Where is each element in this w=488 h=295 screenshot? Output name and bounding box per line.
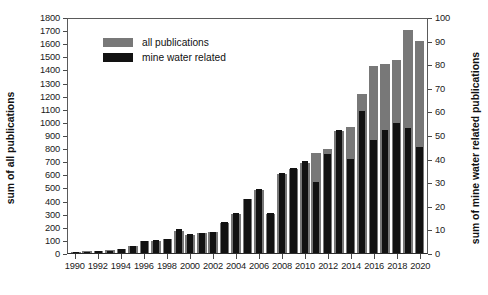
x-axis-tick	[334, 254, 346, 260]
x-axis-tick	[150, 254, 162, 260]
bar-mine-water-related[interactable]	[107, 251, 113, 253]
bar-group[interactable]	[311, 19, 322, 253]
y-axis-right-tick	[428, 207, 432, 208]
y-axis-right-tick	[428, 183, 432, 184]
bar-mine-water-related[interactable]	[164, 239, 170, 253]
bar-group[interactable]	[414, 19, 425, 253]
bar-mine-water-related[interactable]	[405, 128, 411, 253]
bar-group[interactable]	[253, 19, 264, 253]
x-axis-label-cell: 2006	[253, 261, 265, 277]
y-axis-right-tick-label: 70	[435, 84, 445, 94]
bar-mine-water-related[interactable]	[210, 232, 216, 253]
bar-group[interactable]	[276, 19, 287, 253]
bar-mine-water-related[interactable]	[141, 241, 147, 253]
x-axis-tick	[403, 254, 415, 260]
x-axis-label-cell: 2000	[184, 261, 196, 277]
x-axis-label-cell: 2020	[414, 261, 426, 277]
bar-mine-water-related[interactable]	[73, 252, 79, 253]
x-axis-tick	[230, 254, 242, 260]
bar-group[interactable]	[81, 19, 92, 253]
bar-mine-water-related[interactable]	[267, 213, 273, 253]
y-axis-left-tick-label: 1000	[40, 118, 60, 128]
y-axis-left-tick-label: 600	[45, 170, 60, 180]
bar-mine-water-related[interactable]	[244, 199, 250, 253]
y-axis-right-tick-label: 90	[435, 37, 445, 47]
bar-group[interactable]	[288, 19, 299, 253]
y-axis-right-tick-label: 80	[435, 60, 445, 70]
bar-mine-water-related[interactable]	[302, 161, 308, 253]
y-axis-right-title: sum of mine water related publications	[466, 0, 484, 295]
bar-mine-water-related[interactable]	[199, 233, 205, 253]
bar-group[interactable]	[402, 19, 413, 253]
x-axis-tick	[173, 254, 185, 260]
bar-group[interactable]	[391, 19, 402, 253]
bar-mine-water-related[interactable]	[256, 189, 262, 253]
x-axis-tick	[81, 254, 93, 260]
bar-group[interactable]	[299, 19, 310, 253]
bar-group[interactable]	[242, 19, 253, 253]
x-axis-label-cell: 1996	[138, 261, 150, 277]
y-axis-left: 0100200300400500600700800900100011001200…	[0, 18, 67, 254]
bar-mine-water-related[interactable]	[324, 154, 330, 253]
bar-mine-water-related[interactable]	[290, 168, 296, 253]
y-axis-left-tick-label: 0	[55, 249, 60, 259]
x-axis-tick	[288, 254, 300, 260]
x-axis-tick	[219, 254, 231, 260]
x-axis-tick	[276, 254, 288, 260]
bar-group[interactable]	[333, 19, 344, 253]
bar-mine-water-related[interactable]	[130, 246, 136, 253]
legend-item-all-publications: all publications	[103, 36, 226, 49]
x-axis-tick	[242, 254, 254, 260]
x-axis-label-cell: 2012	[322, 261, 334, 277]
bar-mine-water-related[interactable]	[359, 111, 365, 253]
x-axis-tick-label: 2020	[410, 261, 430, 271]
bar-mine-water-related[interactable]	[336, 130, 342, 253]
y-axis-left-tick-label: 700	[45, 157, 60, 167]
y-axis-left-tick-label: 100	[45, 236, 60, 246]
bar-mine-water-related[interactable]	[313, 182, 319, 253]
x-axis-tick	[345, 254, 357, 260]
legend-item-mine-water-related: mine water related	[103, 51, 226, 64]
bar-group[interactable]	[70, 19, 81, 253]
bar-mine-water-related[interactable]	[221, 222, 227, 253]
x-axis-tick	[207, 254, 219, 260]
legend-swatch-icon-all	[103, 38, 133, 47]
y-axis-left-tick-label: 200	[45, 223, 60, 233]
bar-group[interactable]	[356, 19, 367, 253]
y-axis-right-tick-label: 40	[435, 155, 445, 165]
x-axis-tick	[196, 254, 208, 260]
bar-mine-water-related[interactable]	[347, 159, 353, 253]
x-axis-label-cell: 2010	[299, 261, 311, 277]
y-axis-right-tick	[428, 160, 432, 161]
legend-label-all: all publications	[142, 37, 209, 48]
bar-group[interactable]	[345, 19, 356, 253]
bar-mine-water-related[interactable]	[176, 229, 182, 253]
y-axis-left-tick-label: 400	[45, 197, 60, 207]
y-axis-left-tick-label: 800	[45, 144, 60, 154]
bar-group[interactable]	[368, 19, 379, 253]
bar-mine-water-related[interactable]	[84, 252, 90, 253]
x-axis-tick	[380, 254, 392, 260]
bar-group[interactable]	[322, 19, 333, 253]
bar-mine-water-related[interactable]	[382, 130, 388, 253]
y-axis-left-tick-label: 1200	[40, 92, 60, 102]
bar-group[interactable]	[265, 19, 276, 253]
bar-mine-water-related[interactable]	[95, 251, 101, 253]
y-axis-right-tick-label: 10	[435, 225, 445, 235]
bar-mine-water-related[interactable]	[393, 123, 399, 253]
bar-group[interactable]	[230, 19, 241, 253]
x-axis-label-cell: 2002	[207, 261, 219, 277]
bar-mine-water-related[interactable]	[118, 249, 124, 253]
bar-mine-water-related[interactable]	[233, 213, 239, 253]
bar-mine-water-related[interactable]	[153, 240, 159, 253]
bar-mine-water-related[interactable]	[416, 147, 422, 253]
x-axis-tick	[368, 254, 380, 260]
y-axis-left-tick-label: 300	[45, 210, 60, 220]
bar-mine-water-related[interactable]	[187, 234, 193, 253]
y-axis-right-tick	[428, 65, 432, 66]
x-axis-tick	[104, 254, 116, 260]
bar-group[interactable]	[379, 19, 390, 253]
bar-mine-water-related[interactable]	[370, 140, 376, 253]
y-axis-left-tick-label: 1600	[40, 39, 60, 49]
bar-mine-water-related[interactable]	[279, 173, 285, 253]
